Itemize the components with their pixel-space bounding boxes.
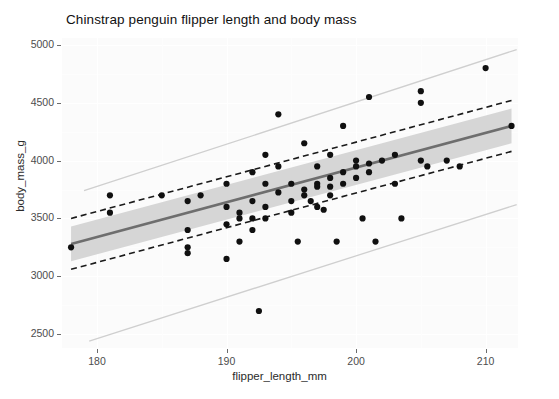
data-point xyxy=(392,181,398,187)
data-point xyxy=(223,204,229,210)
chart-container: Chinstrap penguin flipper length and bod… xyxy=(0,0,559,399)
y-tick-label-4000: 4000 xyxy=(31,155,54,166)
data-point xyxy=(340,181,346,187)
x-tick-mark-200 xyxy=(356,349,357,353)
data-point xyxy=(308,198,314,204)
y-tick-label-5000: 5000 xyxy=(31,39,54,50)
data-point xyxy=(249,227,255,233)
data-point xyxy=(262,152,268,158)
data-point xyxy=(392,152,398,158)
data-point xyxy=(159,192,165,198)
x-tick-mark-180 xyxy=(97,349,98,353)
data-point xyxy=(418,100,424,106)
data-point xyxy=(185,198,191,204)
data-point xyxy=(223,181,229,187)
y-tick-label-2500: 2500 xyxy=(31,328,54,339)
y-tick-label-3000: 3000 xyxy=(31,270,54,281)
data-point xyxy=(398,215,404,221)
data-point xyxy=(236,210,242,216)
data-point xyxy=(223,256,229,262)
data-point xyxy=(314,184,320,190)
x-tick-label-190: 190 xyxy=(207,356,247,367)
y-tick-label-3500: 3500 xyxy=(31,212,54,223)
data-point xyxy=(198,192,204,198)
x-tick-label-180: 180 xyxy=(77,356,117,367)
data-point xyxy=(68,244,74,250)
data-point xyxy=(327,152,333,158)
data-point xyxy=(295,238,301,244)
data-point xyxy=(107,192,113,198)
data-point xyxy=(185,227,191,233)
data-point xyxy=(275,189,281,195)
data-point xyxy=(275,163,281,169)
data-point xyxy=(262,204,268,210)
plot-panel xyxy=(62,38,518,348)
data-point xyxy=(314,163,320,169)
data-point xyxy=(301,192,307,198)
data-point xyxy=(424,163,430,169)
data-point xyxy=(321,207,327,213)
data-point xyxy=(359,215,365,221)
y-tick-mark-3500 xyxy=(57,218,61,219)
data-point xyxy=(340,123,346,129)
data-point xyxy=(353,163,359,169)
data-point xyxy=(288,198,294,204)
data-point xyxy=(275,111,281,117)
data-point xyxy=(327,175,333,181)
data-point xyxy=(372,238,378,244)
y-tick-mark-3000 xyxy=(57,276,61,277)
y-tick-label-4500: 4500 xyxy=(31,97,54,108)
data-point xyxy=(249,215,255,221)
x-tick-label-200: 200 xyxy=(336,356,376,367)
data-point xyxy=(262,181,268,187)
data-point xyxy=(353,175,359,181)
x-axis-title: flipper_length_mm xyxy=(0,370,559,382)
data-point xyxy=(288,210,294,216)
data-point xyxy=(334,238,340,244)
y-tick-mark-4000 xyxy=(57,161,61,162)
x-tick-mark-210 xyxy=(486,349,487,353)
data-point xyxy=(256,308,262,314)
x-tick-mark-190 xyxy=(227,349,228,353)
data-point xyxy=(327,192,333,198)
plot-data-layer xyxy=(62,38,518,348)
data-point xyxy=(379,158,385,164)
data-point xyxy=(107,210,113,216)
data-point xyxy=(249,169,255,175)
data-point xyxy=(366,169,372,175)
data-point xyxy=(301,140,307,146)
y-tick-mark-4500 xyxy=(57,103,61,104)
data-point xyxy=(353,158,359,164)
data-point xyxy=(288,181,294,187)
data-point xyxy=(483,65,489,71)
data-point xyxy=(340,169,346,175)
data-point xyxy=(185,250,191,256)
data-point xyxy=(444,158,450,164)
data-point xyxy=(236,215,242,221)
y-tick-mark-5000 xyxy=(57,45,61,46)
data-point xyxy=(508,123,514,129)
data-point xyxy=(236,238,242,244)
data-point xyxy=(301,186,307,192)
y-tick-mark-2500 xyxy=(57,334,61,335)
data-point xyxy=(249,198,255,204)
data-point xyxy=(366,94,372,100)
data-point xyxy=(418,158,424,164)
data-point xyxy=(314,204,320,210)
data-point xyxy=(185,244,191,250)
chart-title: Chinstrap penguin flipper length and bod… xyxy=(66,12,357,27)
x-tick-label-210: 210 xyxy=(466,356,506,367)
data-point xyxy=(457,163,463,169)
data-point xyxy=(223,221,229,227)
data-point xyxy=(262,215,268,221)
data-point xyxy=(327,184,333,190)
y-axis-title: body_mass_g xyxy=(14,96,26,256)
data-point xyxy=(418,88,424,94)
data-point xyxy=(366,160,372,166)
